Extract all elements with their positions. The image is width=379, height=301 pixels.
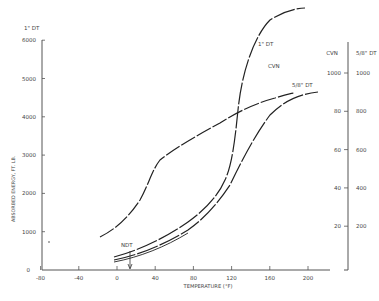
- x-tick-label: 0: [115, 275, 119, 281]
- chart: -80-4004080120160200 0100020003000400050…: [0, 0, 379, 301]
- x-tick-label: -80: [36, 275, 45, 281]
- ndt-label: NDT: [121, 242, 133, 248]
- x-axis-label: TEMPERATURE (°F): [183, 283, 233, 289]
- dt58-tick-label: 800: [356, 108, 367, 114]
- dt58-tick-label: 600: [356, 147, 367, 153]
- cvn-tick-label: 1000: [327, 70, 341, 76]
- y-axis-label: ABSORBED ENERGY, FT. LB.: [11, 156, 16, 222]
- left-axis-title: 1" DT: [24, 25, 40, 31]
- dt58-tick-label: 400: [356, 185, 367, 191]
- stray-dot: [48, 241, 50, 243]
- x-tick-label: 40: [152, 275, 159, 281]
- x-tick-label: -40: [74, 275, 83, 281]
- x-ticks: -80-4004080120160200: [36, 266, 314, 281]
- x-tick-label: 80: [190, 275, 197, 281]
- cvn-tick-label: 80: [334, 108, 341, 114]
- cvn-tick-label: 40: [334, 185, 341, 191]
- y-tick-label: 0: [27, 267, 31, 273]
- curve-58-dt: [114, 92, 318, 262]
- y-tick-label: 1000: [22, 229, 36, 235]
- label-cvn: CVN: [268, 63, 280, 69]
- dt58-tick-label: 1000: [356, 70, 370, 76]
- label-1in-dt: 1" DT: [258, 41, 274, 47]
- right-axis: [344, 42, 348, 270]
- y-ticks-right: 1000806040201000800600400200: [327, 70, 370, 229]
- y-tick-label: 2000: [22, 190, 36, 196]
- curve-1in-dt: [114, 8, 305, 257]
- y-tick-label: 4000: [22, 114, 36, 120]
- dt58-tick-label: 200: [356, 223, 367, 229]
- cvn-tick-label: 60: [334, 147, 341, 153]
- right-axis-title-58dt: 5/8" DT: [356, 50, 377, 56]
- y-tick-label: 3000: [22, 152, 36, 158]
- y-tick-label: 5000: [22, 76, 36, 82]
- label-58-dt: 5/8" DT: [292, 82, 313, 88]
- y-tick-label: 6000: [22, 37, 36, 43]
- x-tick-label: 120: [226, 275, 237, 281]
- x-tick-label: 200: [303, 275, 314, 281]
- x-tick-label: 160: [265, 275, 276, 281]
- right-axis-title-cvn: CVN: [326, 50, 338, 56]
- cvn-tick-label: 20: [334, 223, 341, 229]
